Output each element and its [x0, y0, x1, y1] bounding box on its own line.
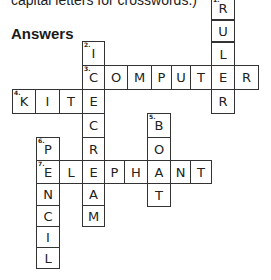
cell-letter: B: [155, 118, 164, 133]
crossword-cell: O: [104, 65, 128, 90]
crossword-cell: M: [127, 65, 152, 90]
clue-number: 1.: [213, 0, 219, 3]
cell-letter: H: [131, 165, 141, 180]
cell-letter: K: [20, 94, 29, 109]
cell-letter: L: [44, 251, 51, 266]
cell-letter: L: [219, 47, 226, 62]
cell-letter: P: [111, 165, 119, 180]
cell-letter: R: [218, 1, 227, 16]
cell-letter: T: [155, 188, 163, 203]
crossword-cell: 3.C: [82, 65, 105, 90]
crossword-cell: T: [190, 160, 212, 184]
cell-letter: C: [89, 118, 98, 133]
answers-heading: Answers: [11, 25, 74, 42]
crossword-cell: C: [36, 205, 60, 227]
crossword-cell: P: [104, 160, 125, 184]
crossword-cell: 5.B: [147, 113, 171, 138]
crossword-cell: R: [82, 137, 105, 161]
crossword-cell: H: [124, 160, 148, 184]
cell-letter: N: [43, 187, 53, 202]
clue-number: 4.: [14, 89, 20, 96]
cell-letter: A: [155, 165, 164, 180]
clue-number: 6.: [38, 137, 44, 144]
cell-letter: U: [176, 70, 186, 85]
crossword-cell: U: [171, 65, 191, 90]
cell-letter: E: [219, 70, 227, 85]
crossword-cell: 1.R: [211, 0, 235, 20]
cell-letter: R: [218, 94, 227, 109]
cell-letter: M: [134, 70, 145, 85]
clue-number: 3.: [84, 65, 90, 72]
cell-letter: T: [67, 94, 75, 109]
cell-letter: T: [197, 70, 205, 85]
crossword-cell: E: [211, 65, 235, 90]
cell-letter: C: [89, 70, 98, 85]
cell-letter: R: [242, 70, 251, 85]
crossword-cell: E: [82, 160, 105, 184]
cell-letter: R: [89, 142, 98, 157]
cell-letter: E: [89, 165, 97, 180]
clue-number: 5.: [149, 113, 155, 120]
crossword-cell: M: [82, 205, 105, 227]
crossword-cell: L: [211, 42, 235, 66]
cell-letter: E: [44, 165, 52, 180]
crossword-cell: A: [147, 160, 171, 184]
crossword-cell: R: [211, 89, 235, 114]
cell-letter: I: [92, 46, 96, 61]
clue-number: 2.: [84, 41, 90, 48]
crossword-cell: I: [35, 89, 60, 114]
crossword-cell: R: [234, 65, 259, 90]
crossword-cell: A: [82, 183, 105, 206]
cell-letter: O: [111, 70, 121, 85]
clue-number: 7.: [38, 160, 44, 167]
crossword-cell: L: [59, 160, 83, 184]
crossword-cell: 2.I: [82, 41, 105, 66]
crossword-cell: 4.K: [12, 89, 36, 114]
crossword-cell: I: [36, 226, 60, 248]
crossword-cell: U: [211, 20, 235, 42]
cell-letter: P: [44, 142, 52, 157]
cell-letter: I: [46, 230, 50, 245]
cell-letter: U: [218, 24, 228, 39]
crossword-cell: N: [170, 160, 191, 184]
crossword-cell: O: [147, 137, 171, 161]
crossword-cell: C: [82, 113, 105, 138]
crossword-cell: L: [36, 247, 60, 269]
crossword-cell: T: [59, 89, 83, 114]
crossword-cell: 6.P: [36, 137, 60, 161]
cell-letter: E: [89, 94, 97, 109]
cell-letter: C: [43, 209, 52, 224]
cell-letter: M: [88, 209, 99, 224]
intro-text: capital letters for crosswords.): [11, 0, 197, 8]
cell-letter: T: [197, 165, 205, 180]
cell-letter: O: [154, 142, 164, 157]
crossword-cell: P: [151, 65, 172, 90]
crossword-cell: T: [147, 183, 171, 207]
crossword-cell: T: [190, 65, 212, 90]
crossword-cell: N: [36, 183, 60, 206]
cell-letter: N: [176, 165, 186, 180]
cell-letter: P: [158, 70, 166, 85]
crossword-cell: E: [82, 89, 105, 114]
cell-letter: I: [46, 94, 50, 109]
cell-letter: A: [89, 187, 98, 202]
cell-letter: L: [67, 165, 74, 180]
crossword-cell: 7.E: [36, 160, 60, 184]
